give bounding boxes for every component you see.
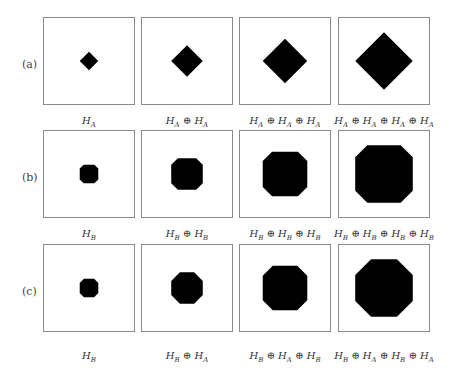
mixed-shape: [142, 245, 232, 331]
panel-caption: HB ⊕ HA: [132, 350, 242, 364]
panel-octagon: [239, 130, 331, 218]
panel-caption: HB ⊕ HB: [132, 228, 242, 242]
diamond-shape: [44, 18, 134, 104]
panel-caption: HB ⊕ HA ⊕ HB ⊕ HA: [329, 350, 439, 364]
panel-caption: HB: [34, 350, 144, 364]
octagon-shape: [142, 131, 232, 217]
panel-octagon: [141, 130, 233, 218]
row-label: (b): [22, 171, 42, 184]
panel-octagon: [43, 130, 135, 218]
mixed-shape: [339, 245, 429, 331]
panel-caption: HB ⊕ HB ⊕ HB: [230, 228, 340, 242]
panel-octagon: [338, 130, 430, 218]
panel-caption: HA: [34, 115, 144, 129]
row-label: (c): [22, 285, 42, 298]
panel-diamond: [239, 17, 331, 105]
panel-diamond: [141, 17, 233, 105]
panel-caption: HA ⊕ HA ⊕ HA ⊕ HA: [329, 115, 439, 129]
panel-mixed: [43, 244, 135, 332]
panel-diamond: [43, 17, 135, 105]
diamond-shape: [339, 18, 429, 104]
panel-caption: HB: [34, 228, 144, 242]
octagon-shape: [240, 131, 330, 217]
row-label: (a): [22, 58, 42, 71]
octagon-shape: [44, 131, 134, 217]
panel-caption: HA ⊕ HA: [132, 115, 242, 129]
mixed-shape: [44, 245, 134, 331]
diamond-shape: [142, 18, 232, 104]
panel-caption: HB ⊕ HB ⊕ HB ⊕ HB: [329, 228, 439, 242]
panel-mixed: [141, 244, 233, 332]
octagon-shape: [339, 131, 429, 217]
panel-mixed: [239, 244, 331, 332]
mixed-shape: [240, 245, 330, 331]
diamond-shape: [240, 18, 330, 104]
panel-caption: HA ⊕ HA ⊕ HA: [230, 115, 340, 129]
panel-diamond: [338, 17, 430, 105]
panel-caption: HB ⊕ HA ⊕ HB: [230, 350, 340, 364]
panel-mixed: [338, 244, 430, 332]
